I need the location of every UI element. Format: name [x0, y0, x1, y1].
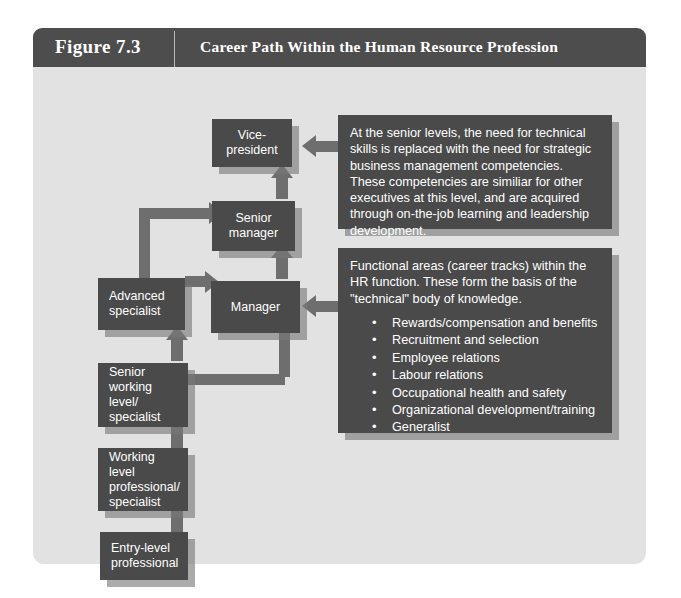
connector-advanced-to-seniormanager-horizontal: [139, 208, 213, 219]
connector-callout1-to-vp-stem: [316, 141, 338, 152]
node-vice-president-label: Vice- president: [212, 128, 292, 158]
node-senior-manager[interactable]: Senior manager: [212, 201, 295, 251]
header-divider: [174, 31, 175, 67]
figure-page: Figure 7.3 Career Path Within the Human …: [0, 0, 681, 598]
node-manager-label: Manager: [211, 300, 300, 315]
node-senior-working-level-label: Senior working level/ specialist: [98, 365, 188, 425]
figure-frame: Figure 7.3 Career Path Within the Human …: [33, 28, 646, 564]
node-manager[interactable]: Manager: [211, 281, 300, 333]
callout-functional-areas[interactable]: Functional areas (career tracks) within …: [338, 248, 612, 433]
connector-callout2-to-manager-arrow: [302, 295, 316, 317]
connector-entry-to-working-stem: [171, 510, 183, 532]
connector-manager-to-seniormanager-stem: [276, 257, 288, 279]
node-entry-level-professional-label: Entry-level professional: [100, 541, 184, 571]
node-entry-level-professional[interactable]: Entry-level professional: [100, 532, 188, 580]
list-item: Labour relations: [372, 367, 612, 384]
figure-header-bar: Figure 7.3 Career Path Within the Human …: [33, 28, 646, 67]
node-senior-working-level[interactable]: Senior working level/ specialist: [98, 363, 188, 427]
callout-senior-levels-text: At the senior levels, the need for techn…: [338, 115, 612, 239]
connector-seniorworking-to-advanced-stem: [171, 339, 183, 361]
connector-seniorworking-to-manager-horizontal: [188, 374, 285, 385]
figure-title: Career Path Within the Human Resource Pr…: [200, 38, 558, 56]
node-working-level-professional[interactable]: Working level professional/ specialist: [98, 448, 188, 511]
callout-senior-levels[interactable]: At the senior levels, the need for techn…: [338, 115, 612, 229]
list-item: Rewards/compensation and benefits: [372, 315, 612, 332]
node-advanced-specialist-label: Advanced specialist: [98, 289, 171, 319]
figure-body: Vice- president Senior manager Manager A…: [33, 67, 646, 564]
list-item: Organizational development/training: [372, 402, 612, 419]
node-senior-manager-label: Senior manager: [212, 211, 295, 241]
list-item: Occupational health and safety: [372, 385, 612, 402]
callout-functional-areas-text: Functional areas (career tracks) within …: [338, 248, 612, 307]
list-item: Employee relations: [372, 350, 612, 367]
figure-number: Figure 7.3: [55, 36, 141, 58]
connector-working-to-senior-stem: [171, 426, 183, 448]
node-vice-president[interactable]: Vice- president: [212, 119, 292, 167]
connector-seniormanager-to-vp-stem: [276, 177, 288, 199]
connector-callout2-to-manager-stem: [316, 301, 338, 312]
list-item: Recruitment and selection: [372, 332, 612, 349]
node-working-level-professional-label: Working level professional/ specialist: [98, 450, 188, 510]
list-item: Generalist: [372, 419, 612, 436]
callout-functional-areas-list: Rewards/compensation and benefits Recrui…: [338, 315, 612, 437]
node-advanced-specialist[interactable]: Advanced specialist: [98, 278, 185, 330]
connector-callout1-to-vp-arrow: [302, 135, 316, 157]
